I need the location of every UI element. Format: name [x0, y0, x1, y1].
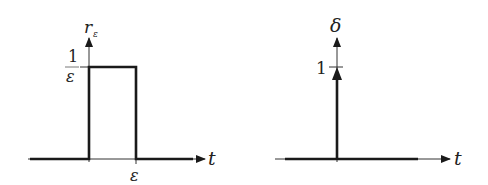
impulse-label: 1: [316, 58, 327, 78]
diagram-canvas: r ε 1 ε ε t δ 1 t: [0, 0, 488, 185]
width-label: ε: [130, 166, 139, 185]
delta-impulse-arrowhead: [332, 67, 342, 80]
delta-plot: δ 1 t: [275, 14, 462, 169]
right-y-label: δ: [330, 14, 341, 36]
left-y-label-sub: ε: [93, 29, 98, 39]
height-label-num: 1: [68, 47, 78, 66]
height-label-den: ε: [66, 67, 75, 86]
rect-pulse-curve: [30, 67, 193, 159]
left-y-label: r: [84, 17, 93, 37]
left-x-label: t: [208, 147, 216, 169]
right-x-label: t: [454, 147, 462, 169]
rect-pulse-plot: r ε 1 ε ε t: [28, 17, 216, 185]
